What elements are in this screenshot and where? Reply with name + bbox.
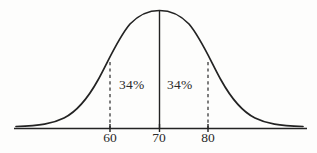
normal-distribution-figure: 34% 34% 60 70 80 xyxy=(0,0,317,153)
area-label-right-34-percent: 34% xyxy=(167,78,192,92)
x-axis-tick-label-80: 80 xyxy=(191,131,225,145)
x-axis-tick-label-60: 60 xyxy=(93,131,127,145)
area-label-left-34-percent: 34% xyxy=(119,78,144,92)
x-axis-tick-label-70: 70 xyxy=(142,131,176,145)
